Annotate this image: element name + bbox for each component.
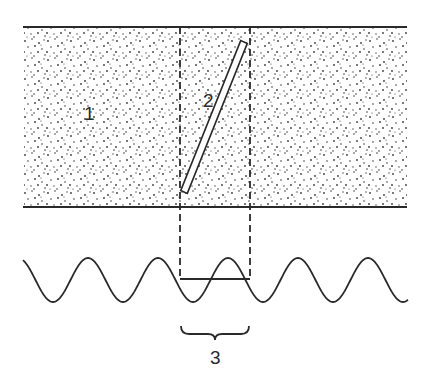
brace-icon (181, 326, 249, 340)
label-medium: 1 (84, 103, 95, 124)
label-wavelength: 3 (210, 347, 221, 368)
label-tube: 2 (203, 90, 214, 111)
diagram-canvas: 1 2 3 (0, 0, 424, 381)
